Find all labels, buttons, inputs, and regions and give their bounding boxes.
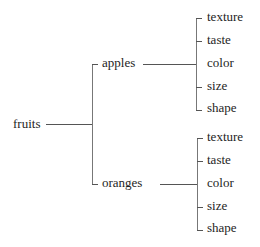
tick-oranges bbox=[92, 184, 98, 185]
trunk-oranges bbox=[197, 138, 198, 230]
tick bbox=[197, 161, 203, 162]
leaf-apples-texture: texture bbox=[207, 10, 243, 24]
connector-oranges bbox=[160, 184, 197, 185]
tick bbox=[196, 18, 202, 19]
connector-apples bbox=[143, 64, 197, 65]
connector-root bbox=[46, 124, 92, 125]
leaf-oranges-color: color bbox=[207, 176, 234, 190]
leaf-apples-taste: taste bbox=[207, 33, 231, 47]
tick bbox=[196, 41, 202, 42]
leaf-oranges-texture: texture bbox=[207, 130, 243, 144]
tick bbox=[196, 110, 202, 111]
tick-apples bbox=[92, 64, 98, 65]
trunk-root bbox=[92, 64, 93, 185]
tick bbox=[197, 230, 203, 231]
tick bbox=[196, 87, 202, 88]
tick bbox=[197, 207, 203, 208]
node-oranges: oranges bbox=[102, 176, 142, 190]
node-fruits: fruits bbox=[13, 117, 40, 131]
leaf-oranges-taste: taste bbox=[207, 153, 231, 167]
leaf-apples-size: size bbox=[207, 79, 227, 93]
leaf-oranges-size: size bbox=[207, 199, 227, 213]
leaf-apples-color: color bbox=[207, 56, 234, 70]
tick bbox=[197, 138, 203, 139]
node-apples: apples bbox=[102, 56, 135, 70]
leaf-oranges-shape: shape bbox=[207, 221, 237, 235]
trunk-apples bbox=[196, 18, 197, 110]
leaf-apples-shape: shape bbox=[207, 101, 237, 115]
